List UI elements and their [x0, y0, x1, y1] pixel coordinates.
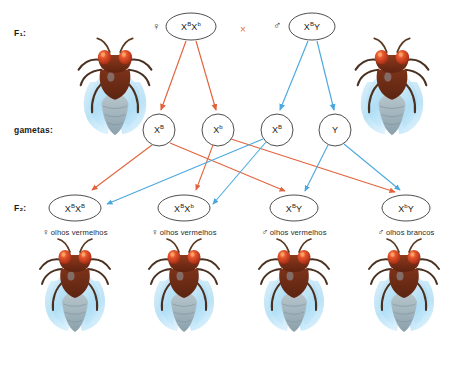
diagram-canvas: F₁: gametas: F₂: ♀ XBXb × ♂ XBY XB Xb XB… — [0, 0, 456, 366]
offspring-2-sex-symbol: ♀ — [151, 227, 158, 237]
offspring-genotype-1: XBXB — [65, 204, 85, 214]
gamete-label-4: Y — [332, 125, 338, 135]
offspring-genotype-2: XBXb — [174, 204, 194, 214]
offspring-4-phenotype-text: olhos brancos — [386, 228, 435, 237]
offspring-1-sex-symbol: ♀ — [42, 227, 49, 237]
row-label-gametes: gametas: — [14, 125, 53, 135]
arrow-gamete1-to-offspring1 — [92, 145, 152, 190]
offspring-3-allele2: Y — [296, 204, 302, 214]
offspring-4-allele2: Y — [408, 204, 414, 214]
offspring-3-phenotype-text: olhos vermelhos — [270, 228, 327, 237]
fly-f1-male — [356, 38, 429, 135]
gamete-label-2: Xb — [213, 125, 223, 135]
offspring-1-phenotype-text: olhos vermelhos — [51, 228, 108, 237]
arrow-gamete4-to-offspring3 — [305, 145, 328, 191]
gamete-label-1: XB — [154, 125, 164, 135]
mother-sex-symbol: ♀ — [152, 21, 160, 32]
fly-f2-4 — [369, 239, 439, 332]
arrow-gamete4-to-offspring4 — [344, 144, 400, 190]
father-sex-symbol: ♂ — [273, 20, 281, 31]
offspring-2-sup2: b — [190, 203, 193, 209]
arrow-gamete1-to-offspring3 — [170, 143, 285, 191]
row-label-f2: F₂: — [14, 203, 26, 213]
offspring-phenotype-4: ♂olhos brancos — [378, 227, 435, 237]
fly-f2-1 — [40, 239, 110, 332]
cross-symbol: × — [240, 25, 246, 35]
arrow-father-to-gamete4 — [317, 41, 334, 110]
offspring-phenotype-2: ♀olhos vermelhos — [151, 227, 216, 237]
gamete-2-sup: b — [219, 124, 222, 130]
fly-f2-3 — [259, 239, 329, 332]
fly-f1-female — [79, 38, 152, 135]
arrow-gamete2-to-offspring2 — [196, 145, 213, 190]
father-allele2: Y — [314, 22, 320, 32]
gamete-1-sup: B — [160, 124, 164, 130]
mother-allele2-sup: b — [197, 21, 200, 27]
arrow-mother-to-gamete1 — [161, 41, 186, 110]
offspring-phenotype-1: ♀olhos vermelhos — [42, 227, 107, 237]
mother-genotype: XBXb — [181, 22, 201, 32]
offspring-3-sex-symbol: ♂ — [261, 227, 268, 237]
father-genotype: XBY — [304, 22, 320, 32]
offspring-phenotype-3: ♂olhos vermelhos — [261, 227, 326, 237]
arrow-father-to-gamete3 — [280, 41, 308, 110]
gamete-3-sup: B — [278, 124, 282, 130]
offspring-4-sex-symbol: ♂ — [378, 227, 385, 237]
fly-f2-2 — [149, 239, 219, 332]
diagram-vector-layer — [0, 0, 456, 366]
offspring-2-phenotype-text: olhos vermelhos — [160, 228, 217, 237]
gamete-label-3: XB — [272, 125, 282, 135]
arrow-gamete3-to-offspring2 — [213, 142, 266, 204]
arrow-mother-to-gamete2 — [196, 41, 216, 110]
offspring-1-sup2: B — [81, 203, 85, 209]
offspring-genotype-3: XBY — [286, 204, 302, 214]
gamete-4-allele: Y — [332, 125, 338, 135]
offspring-genotype-4: XbY — [398, 204, 414, 214]
row-label-f1: F₁: — [14, 28, 26, 38]
